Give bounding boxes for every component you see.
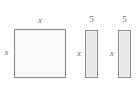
rectangle-1-top-label: 5 xyxy=(82,15,101,24)
square-left-label: x xyxy=(1,48,12,57)
square-tile xyxy=(14,29,66,78)
rectangle-2-left-label: x xyxy=(107,49,117,58)
rectangle-2-top-label: 5 xyxy=(115,15,134,24)
rectangle-tile-2 xyxy=(118,30,131,78)
figure-root: x x 5 x 5 x xyxy=(0,0,138,85)
rectangle-1-left-label: x xyxy=(74,49,84,58)
rectangle-tile-1 xyxy=(85,30,98,78)
square-top-label: x xyxy=(30,16,50,25)
